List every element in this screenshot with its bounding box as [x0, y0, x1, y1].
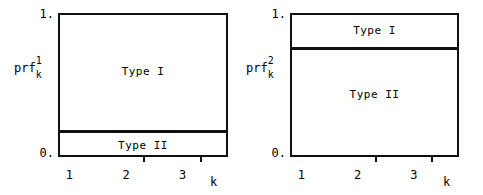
- figure: 1. 0. prf1k Type I Type II 1 2 3 k 1. 0.…: [0, 0, 483, 195]
- x-axis-tick-label-1-left: 1: [59, 169, 79, 181]
- plot-area-right: Type I Type II: [290, 13, 459, 157]
- plot-area-left: Type I Type II: [58, 13, 228, 157]
- y-axis-tick-label-top-left: 1.: [22, 8, 54, 20]
- region-type-ii-right: Type II: [292, 47, 457, 155]
- x-axis-minor-tick-2-right: [431, 157, 433, 162]
- y-axis-label-subscript-left: k: [36, 70, 42, 80]
- chart-panel-right: 1. 0. prf2k Type I Type II 1 2 3 k: [241, 0, 483, 195]
- region-label-type-i-left: Type I: [60, 66, 226, 77]
- x-axis-tick-label-2-right: 2: [348, 169, 368, 181]
- x-axis-tick-label-2-left: 2: [116, 169, 136, 181]
- y-axis-label-left: prf1k: [14, 62, 43, 75]
- region-label-type-ii-right: Type II: [292, 89, 457, 100]
- region-label-type-ii-left: Type II: [60, 140, 226, 151]
- x-axis-left: 1 2 3: [58, 157, 228, 195]
- y-axis-label-right: prf2k: [246, 62, 275, 75]
- region-type-i-left: Type I: [60, 15, 226, 130]
- y-axis-label-superscript-right: 2: [268, 56, 274, 66]
- y-axis-label-superscript-left: 1: [36, 56, 42, 66]
- y-axis-tick-label-bottom-right: 0.: [254, 147, 286, 159]
- x-axis-right: 1 2 3: [290, 157, 459, 195]
- y-axis-label-base-right: prf: [246, 61, 268, 75]
- y-axis-tick-label-bottom-left: 0.: [22, 147, 54, 159]
- y-axis-tick-label-top-right: 1.: [254, 8, 286, 20]
- x-axis-minor-tick-2-left: [200, 157, 202, 162]
- x-axis-label-right: k: [443, 176, 450, 188]
- x-axis-minor-tick-1-left: [143, 157, 145, 162]
- region-type-i-right: Type I: [292, 15, 457, 47]
- y-axis-label-base-left: prf: [14, 61, 36, 75]
- x-axis-tick-label-1-right: 1: [291, 169, 311, 181]
- y-axis-label-subscript-right: k: [268, 70, 274, 80]
- region-label-type-i-right: Type I: [292, 25, 457, 36]
- x-axis-label-left: k: [210, 176, 217, 188]
- chart-panel-left: 1. 0. prf1k Type I Type II 1 2 3 k: [0, 0, 242, 195]
- y-axis-label-scripts-left: 1k: [36, 63, 43, 75]
- y-axis-label-scripts-right: 2k: [268, 63, 275, 75]
- region-type-ii-left: Type II: [60, 130, 226, 155]
- x-axis-tick-label-3-left: 3: [173, 169, 193, 181]
- x-axis-minor-tick-1-right: [375, 157, 377, 162]
- x-axis-tick-label-3-right: 3: [404, 169, 424, 181]
